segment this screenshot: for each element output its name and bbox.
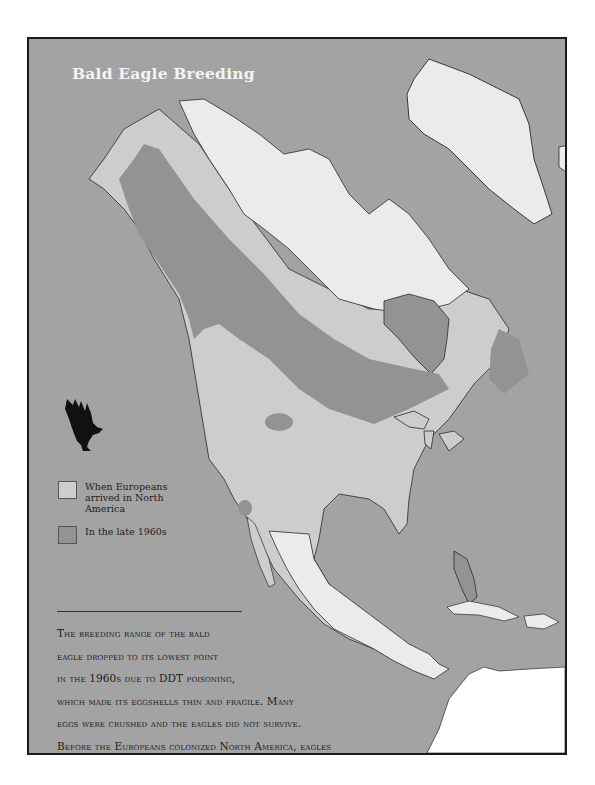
caption-line: which made its eggshells thin and fragil… bbox=[57, 690, 517, 713]
legend-label-historic: When Europeans arrived in North America bbox=[85, 481, 205, 514]
range-1960s-patch-arizona bbox=[238, 500, 252, 516]
caption: The breeding range of the bald eagle dro… bbox=[57, 622, 517, 755]
hispaniola bbox=[524, 614, 559, 629]
map-frame: Bald Eagle Breeding When Europeans arriv… bbox=[27, 37, 567, 755]
caption-top-rule bbox=[57, 611, 242, 612]
caption-line: Before the Europeans colonized North Ame… bbox=[57, 735, 517, 756]
caption-line: eggs were crushed and the eagles did not… bbox=[57, 712, 517, 735]
legend-label-1960s: In the late 1960s bbox=[85, 526, 205, 537]
light-swatch-icon bbox=[58, 481, 77, 499]
eagle-silhouette-icon bbox=[61, 397, 107, 457]
cuba bbox=[447, 601, 519, 621]
range-1960s-patch-yellowstone bbox=[265, 413, 293, 431]
iceland bbox=[559, 144, 565, 174]
map-title: Bald Eagle Breeding bbox=[72, 64, 255, 83]
caption-line: eagle dropped to its lowest point bbox=[57, 645, 517, 668]
caption-line: in the 1960s due to DDT poisoning, bbox=[57, 667, 517, 690]
greenland bbox=[407, 59, 552, 224]
legend-item-1960s: In the late 1960s bbox=[58, 526, 205, 544]
range-1960s-florida bbox=[454, 551, 477, 604]
legend: When Europeans arrived in North America … bbox=[58, 481, 205, 556]
caption-line: The breeding range of the bald bbox=[57, 622, 517, 645]
legend-item-historic: When Europeans arrived in North America bbox=[58, 481, 205, 514]
dark-swatch-icon bbox=[58, 526, 77, 544]
